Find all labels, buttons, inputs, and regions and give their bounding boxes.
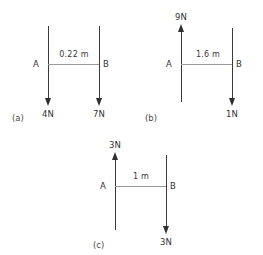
panel-b-right-force-line xyxy=(232,28,233,100)
panel-c-left-force-line xyxy=(115,158,116,230)
panel-a-left-point-label: A xyxy=(33,59,39,69)
panel-c-right-force-label: 3N xyxy=(160,237,172,247)
panel-c-left-force-label: 3N xyxy=(109,140,121,150)
panel-a-right-force-line xyxy=(99,26,100,100)
panel-a-left-arrow-down-icon xyxy=(45,98,51,106)
panel-a-caption: (a) xyxy=(12,113,24,123)
panel-b-dimension-label: 1.6 m xyxy=(196,50,220,60)
panel-b-left-force-label: 9N xyxy=(175,12,187,22)
panel-a-right-arrow-down-icon xyxy=(96,98,102,106)
panel-b-left-arrow-up-icon xyxy=(178,24,184,32)
panel-b-right-point-label: B xyxy=(236,59,242,69)
panel-c-caption: (c) xyxy=(93,240,104,250)
panel-a-right-point-label: B xyxy=(103,59,109,69)
panel-a-separation-line xyxy=(48,64,99,65)
panel-a-left-force-line xyxy=(48,26,49,100)
panel-c-separation-line xyxy=(115,186,166,187)
panel-c-right-force-line xyxy=(166,155,167,228)
panel-b-right-force-label: 1N xyxy=(226,109,238,119)
panel-a-left-force-label: 4N xyxy=(42,109,54,119)
panel-b-left-point-label: A xyxy=(166,59,172,69)
panel-c-dimension-label: 1 m xyxy=(133,172,149,182)
panel-c-left-arrow-up-icon xyxy=(112,152,118,160)
panel-a-right-force-label: 7N xyxy=(93,109,105,119)
panel-b-caption: (b) xyxy=(145,113,157,123)
panel-a-dimension-label: 0.22 m xyxy=(59,50,88,60)
panel-c-right-arrow-down-icon xyxy=(163,226,169,234)
figure-canvas: A 4N B 7N 0.22 m (a) 9N A B 1N 1.6 m (b) xyxy=(0,0,263,255)
panel-b-left-force-line xyxy=(181,30,182,102)
panel-c-left-point-label: A xyxy=(100,181,106,191)
panel-b-separation-line xyxy=(181,64,232,65)
panel-b-right-arrow-down-icon xyxy=(229,98,235,106)
panel-c-right-point-label: B xyxy=(170,181,176,191)
